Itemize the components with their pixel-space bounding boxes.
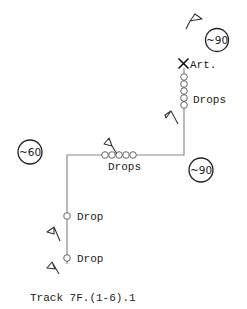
drop-marker-lower-2 xyxy=(64,255,71,262)
artifact-label: Art. xyxy=(190,59,216,71)
drops-label-horizontal: Drops xyxy=(108,161,141,173)
drop-group-upper xyxy=(181,74,188,109)
drop-group-horizontal xyxy=(102,152,137,159)
svg-text:~60: ~60 xyxy=(19,146,41,158)
speed-limit-top: ~90 xyxy=(206,29,229,52)
speed-limit-right: ~90 xyxy=(189,158,213,182)
x-cross-icon xyxy=(179,59,189,69)
drops-label-upper: Drops xyxy=(193,94,226,106)
track-diagram: Art. Drops Drops Drop Drop ~90 ~60 ~90 xyxy=(0,0,247,309)
flag-icon xyxy=(186,14,202,29)
speed-limit-left: ~60 xyxy=(18,140,42,164)
svg-text:~90: ~90 xyxy=(190,164,212,176)
svg-text:~90: ~90 xyxy=(206,34,228,46)
diagram-title: Track 7F.(1-6).1 xyxy=(30,292,136,304)
flag-icon xyxy=(47,227,60,241)
drop-label-lower-1: Drop xyxy=(77,211,103,223)
drop-marker-lower-1 xyxy=(64,213,71,220)
flag-icon xyxy=(165,111,178,124)
drop-label-lower-2: Drop xyxy=(77,253,103,265)
flag-icon xyxy=(47,262,59,274)
